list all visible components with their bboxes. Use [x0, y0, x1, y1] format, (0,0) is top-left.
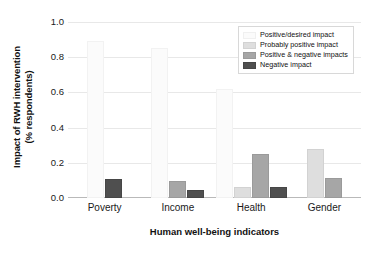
bar[interactable] [270, 187, 287, 198]
bar-group [141, 22, 214, 198]
x-axis-tick-labels: PovertyIncomeHealthGender [68, 202, 361, 218]
bar[interactable] [307, 149, 324, 198]
bar-group [68, 22, 141, 198]
legend-item[interactable]: Positive & negative impacts [243, 51, 348, 59]
bar[interactable] [169, 181, 186, 198]
legend-item-label: Positive/desired impact [260, 31, 334, 39]
bar[interactable] [325, 178, 342, 198]
y-axis-title: Impact of RWH intervention (% respondent… [11, 12, 35, 202]
y-axis-title-container: Impact of RWH intervention (% respondent… [0, 0, 34, 210]
x-axis-tick-label: Poverty [68, 202, 141, 218]
y-axis-tick-label: 0.0 [38, 193, 64, 203]
bar[interactable] [105, 179, 122, 198]
legend-item[interactable]: Probably positive impact [243, 41, 348, 49]
legend-item[interactable]: Positive/desired impact [243, 31, 348, 39]
y-axis-tick-label: 0.8 [38, 52, 64, 62]
bar[interactable] [151, 48, 168, 198]
x-axis-tick-label: Gender [288, 202, 361, 218]
legend-swatch-icon [243, 62, 256, 69]
bar[interactable] [234, 187, 251, 198]
y-axis-tick-label: 1.0 [38, 17, 64, 27]
bar[interactable] [87, 41, 104, 198]
legend-item-label: Probably positive impact [260, 41, 338, 49]
y-axis-tick-labels: 1.00.80.60.40.20.0 [34, 22, 64, 198]
legend-swatch-icon [243, 52, 256, 59]
legend-swatch-icon [243, 42, 256, 49]
y-axis-tick-label: 0.6 [38, 87, 64, 97]
bar[interactable] [216, 89, 233, 198]
bar[interactable] [252, 154, 269, 198]
x-axis-tick-label: Health [215, 202, 288, 218]
legend-item-label: Negative impact [260, 61, 312, 69]
y-axis-tick-label: 0.4 [38, 123, 64, 133]
bar[interactable] [187, 190, 204, 198]
x-axis-tick-label: Income [141, 202, 214, 218]
legend-item-label: Positive & negative impacts [260, 51, 348, 59]
x-axis-title: Human well-being indicators [68, 226, 361, 237]
chart-legend: Positive/desired impactProbably positive… [238, 26, 354, 74]
legend-swatch-icon [243, 32, 256, 39]
y-axis-tick-label: 0.2 [38, 158, 64, 168]
legend-item[interactable]: Negative impact [243, 61, 348, 69]
bar-chart-figure: Impact of RWH intervention (% respondent… [0, 0, 381, 253]
